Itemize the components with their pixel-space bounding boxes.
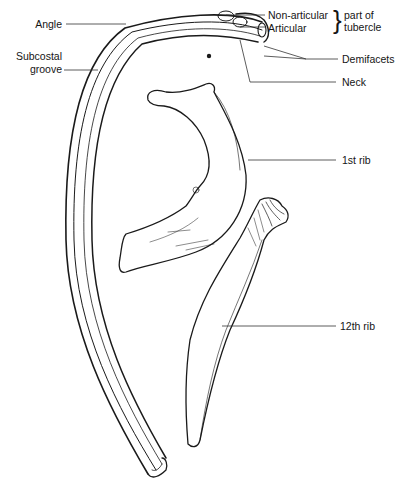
twelfth-rib [186, 198, 288, 447]
label-angle: Angle [20, 18, 62, 30]
label-subcostal-groove-2: groove [4, 63, 62, 75]
label-tubercle-2: tubercle [344, 21, 381, 33]
label-neck: Neck [342, 76, 366, 88]
label-tubercle-1: part of [344, 9, 374, 21]
label-demifacets: Demifacets [342, 53, 395, 65]
first-rib [119, 83, 246, 272]
label-subcostal-groove-1: Subcostal [4, 50, 62, 62]
label-non-articular: Non-articular [268, 9, 328, 21]
label-twelfth-rib: 12th rib [340, 320, 375, 332]
tubercle-brace: } [333, 6, 342, 34]
label-articular: Articular [268, 22, 307, 34]
label-first-rib: 1st rib [342, 154, 371, 166]
typical-rib [66, 11, 269, 477]
